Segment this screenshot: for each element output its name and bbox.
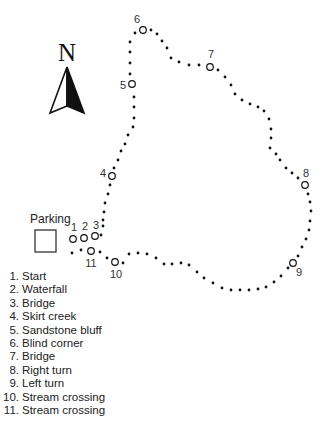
- trail-dot: [273, 281, 276, 284]
- legend-number: 11.: [2, 404, 19, 417]
- legend-number: 3.: [2, 297, 19, 310]
- trail-dot: [305, 238, 308, 241]
- trail-path: [71, 29, 313, 292]
- trail-dot: [308, 229, 311, 232]
- legend: 1.Start2.Waterfall3.Bridge4.Skirt creek5…: [2, 270, 105, 417]
- trail-dot: [122, 262, 125, 265]
- waypoint-label: 5: [120, 79, 126, 91]
- legend-item: 10.Stream crossing: [2, 391, 105, 404]
- trail-dot: [301, 246, 304, 249]
- legend-label: Blind corner: [22, 337, 83, 349]
- legend-label: Stream crossing: [22, 404, 105, 416]
- trail-dot: [178, 61, 181, 64]
- trail-dot: [124, 143, 127, 146]
- trail-dot: [106, 257, 109, 260]
- waypoint-circle-icon: [109, 173, 116, 180]
- waypoint-label: 9: [296, 266, 302, 278]
- trail-dot: [156, 33, 159, 36]
- legend-item: 1.Start: [2, 270, 105, 283]
- waypoint-marker-8: 8: [302, 167, 309, 188]
- waypoint-label: 2: [82, 220, 88, 232]
- legend-number: 10.: [2, 391, 19, 404]
- trail-dot: [257, 288, 260, 291]
- waypoint-label: 7: [208, 48, 214, 60]
- legend-item: 7.Bridge: [2, 350, 105, 363]
- trail-dot: [163, 263, 166, 266]
- trail-dot: [263, 110, 266, 113]
- legend-label: Sandstone bluff: [22, 324, 102, 336]
- legend-label: Right turn: [22, 364, 72, 376]
- trail-dot: [137, 252, 140, 255]
- legend-item: 11.Stream crossing: [2, 404, 105, 417]
- trail-dot: [257, 106, 260, 109]
- legend-number: 2.: [2, 283, 19, 296]
- waypoint-circle-icon: [92, 233, 99, 240]
- trail-dot: [285, 167, 288, 170]
- legend-number: 4.: [2, 310, 19, 323]
- waypoint-marker-9: 9: [290, 260, 302, 278]
- parking-lot-icon: [35, 230, 56, 252]
- trail-dot: [102, 219, 105, 222]
- legend-item: 3.Bridge: [2, 297, 105, 310]
- trail-dot: [127, 134, 130, 137]
- trail-dot: [279, 159, 282, 162]
- legend-item: 2.Waterfall: [2, 283, 105, 296]
- trail-dot: [129, 51, 132, 54]
- trail-dot: [248, 289, 251, 292]
- trail-dot: [230, 289, 233, 292]
- waypoint-marker-10: 10: [110, 259, 122, 280]
- legend-number: 1.: [2, 270, 19, 283]
- trail-dot: [196, 271, 199, 274]
- legend-label: Left turn: [22, 377, 64, 389]
- trail-dot: [134, 32, 137, 35]
- trail-dot: [270, 137, 273, 140]
- legend-item: 8.Right turn: [2, 364, 105, 377]
- trail-dot: [291, 172, 294, 175]
- legend-label: Skirt creek: [22, 310, 76, 322]
- trail-dot: [270, 128, 273, 131]
- legend-label: Waterfall: [22, 283, 67, 295]
- trail-dot: [107, 193, 110, 196]
- trail-dot: [129, 41, 132, 44]
- trail-dot: [224, 76, 227, 79]
- trail-markers: 1234567891011: [70, 13, 309, 280]
- waypoint-marker-7: 7: [207, 48, 214, 70]
- trail-dot: [133, 117, 136, 120]
- legend-number: 8.: [2, 364, 19, 377]
- waypoint-label: 6: [134, 13, 140, 25]
- waypoint-label: 11: [85, 257, 96, 269]
- trail-dot: [133, 106, 136, 109]
- trail-dot: [129, 62, 132, 65]
- legend-item: 6.Blind corner: [2, 337, 105, 350]
- legend-number: 9.: [2, 377, 19, 390]
- trail-dot: [241, 99, 244, 102]
- waypoint-circle-icon: [70, 236, 77, 243]
- trail-dot: [102, 225, 105, 228]
- trail-dot: [297, 255, 300, 258]
- trail-dot: [309, 220, 312, 223]
- trail-dot: [307, 193, 310, 196]
- legend-label: Stream crossing: [22, 391, 105, 403]
- waypoint-marker-5: 5: [120, 79, 135, 91]
- trail-dot: [104, 202, 107, 205]
- trail-dot: [297, 177, 300, 180]
- trail-dot: [188, 64, 191, 67]
- trail-dot: [249, 103, 252, 106]
- legend-item: 9.Left turn: [2, 377, 105, 390]
- trail-dot: [113, 167, 116, 170]
- legend-item: 5.Sandstone bluff: [2, 324, 105, 337]
- waypoint-marker-2: 2: [81, 220, 88, 241]
- trail-dot: [166, 47, 169, 50]
- trail-dot: [155, 257, 158, 260]
- waypoint-label: 8: [303, 167, 309, 179]
- waypoint-marker-1: 1: [70, 221, 77, 242]
- trail-dot: [128, 253, 131, 256]
- waypoint-marker-6: 6: [134, 13, 146, 33]
- trail-dot: [71, 252, 74, 255]
- waypoint-marker-11: 11: [85, 248, 96, 269]
- trail-dot: [239, 289, 242, 292]
- trail-dot: [269, 147, 272, 150]
- legend-number: 7.: [2, 350, 19, 363]
- waypoint-circle-icon: [207, 64, 214, 71]
- parking-label: Parking: [30, 212, 71, 226]
